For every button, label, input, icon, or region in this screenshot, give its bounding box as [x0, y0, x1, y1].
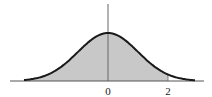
tick-label-two: 2 [165, 85, 171, 97]
normal-curve-chart: 0 2 [0, 0, 212, 97]
tick-label-zero: 0 [105, 85, 111, 97]
shaded-area [24, 33, 168, 81]
